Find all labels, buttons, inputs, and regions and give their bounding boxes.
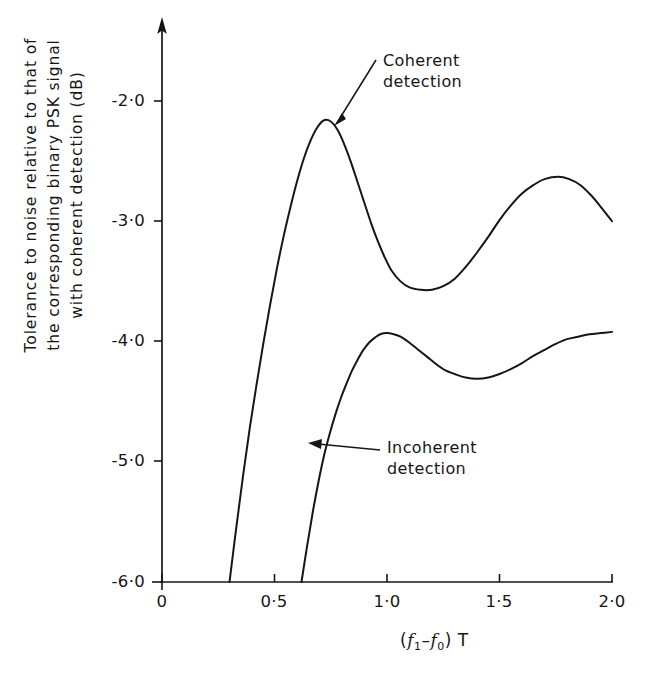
y-tick-label-minus-3: -3·0	[85, 211, 145, 230]
annotation-coherent-detection: Coherent detection	[383, 50, 462, 92]
incoherent-leader-arrow	[308, 439, 380, 450]
clipped-caption	[0, 668, 656, 680]
x-tick-label-1-0: 1·0	[357, 592, 417, 611]
figure-chart: Tolerance to noise relative to that of t…	[0, 0, 656, 680]
annotation-incoherent-detection: Incoherent detection	[387, 437, 477, 479]
y-axis-ticks	[152, 101, 162, 590]
x-title-f0-sub: 0	[437, 640, 445, 653]
y-tick-label-minus-2: -2·0	[85, 91, 145, 110]
x-title-f1: f	[407, 630, 414, 650]
x-tick-label-0-5: 0·5	[244, 592, 304, 611]
coherent-leader-arrow	[334, 60, 376, 126]
x-axis-title: (f1–f0) T	[400, 630, 469, 653]
x-tick-label-0: 0	[132, 592, 192, 611]
annotation-incoherent-line-2: detection	[387, 459, 466, 478]
annotation-incoherent-line-1: Incoherent	[387, 438, 477, 457]
y-tick-label-minus-6: -6·0	[85, 572, 145, 591]
x-tick-label-1-5: 1·5	[469, 592, 529, 611]
annotation-coherent-line-2: detection	[383, 72, 462, 91]
x-title-T: T	[458, 630, 469, 650]
x-tick-label-2-0: 2·0	[582, 592, 642, 611]
y-tick-label-minus-5: -5·0	[85, 451, 145, 470]
y-tick-label-minus-4: -4·0	[85, 331, 145, 350]
annotation-coherent-line-1: Coherent	[383, 51, 460, 70]
x-title-close-paren: )	[445, 630, 452, 650]
